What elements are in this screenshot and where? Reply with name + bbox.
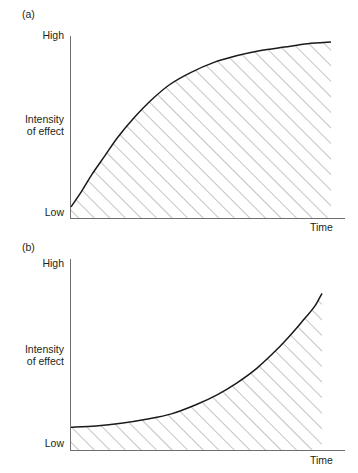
panel-a-y-axis-high-label: High [14,29,64,42]
chart-panel-a: (a) High Intensity of effect Low Time [0,0,358,232]
panel-b-y-axis-name-line1: Intensity [4,343,64,356]
panel-a-y-axis-name-line2: of effect [4,125,64,138]
panel-b-y-axis-high-label: High [14,257,64,270]
panel-b-x-axis-name: Time [310,454,333,467]
panel-b-shaded-area [71,293,322,450]
panel-a-y-axis-name-line1: Intensity [4,113,64,126]
panel-a-label: (a) [22,8,35,20]
panel-b-y-axis-low-label: Low [14,437,64,450]
figure-container: (a) High Intensity of effect Low Time [0,0,358,473]
panel-a-y-axis-low-label: Low [14,206,64,219]
chart-panel-b: (b) High Intensity of effect Low Time [0,232,358,473]
panel-b-label: (b) [22,241,35,253]
panel-b-y-axis-name-line2: of effect [4,355,64,368]
